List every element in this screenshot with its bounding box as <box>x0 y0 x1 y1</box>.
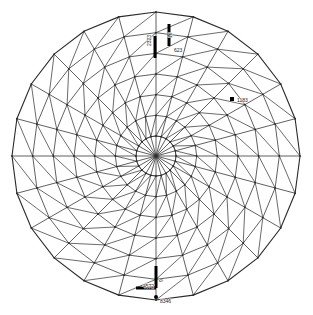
label-1183: 1183 <box>237 97 248 103</box>
label-2323: 2323 <box>146 35 152 46</box>
marker-1183 <box>230 97 234 101</box>
label-16: 16 <box>167 32 173 38</box>
label-4572: 4572 <box>143 283 154 289</box>
mesh-canvas: 2323166231183457283469 <box>0 0 313 315</box>
marker-8346 <box>154 295 158 299</box>
label-623: 623 <box>174 47 183 53</box>
label-9: 9 <box>158 279 164 282</box>
circular-fea-mesh-figure: 2323166231183457283469 <box>0 0 313 315</box>
label-8346: 8346 <box>160 298 171 304</box>
